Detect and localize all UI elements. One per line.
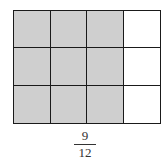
shaded-cell [14,11,51,48]
shaded-cell [51,86,88,123]
unshaded-cell [124,48,161,85]
shaded-cell [87,86,124,123]
numerator: 9 [70,129,100,143]
shaded-cell [87,11,124,48]
shaded-cell [14,86,51,123]
shaded-cell [14,48,51,85]
shaded-cell [51,48,88,85]
unshaded-cell [124,11,161,48]
unshaded-cell [124,86,161,123]
shaded-cell [87,48,124,85]
fraction-label: 9 12 [70,129,100,160]
denominator: 12 [70,146,100,160]
fraction-grid [13,10,161,124]
shaded-cell [51,11,88,48]
